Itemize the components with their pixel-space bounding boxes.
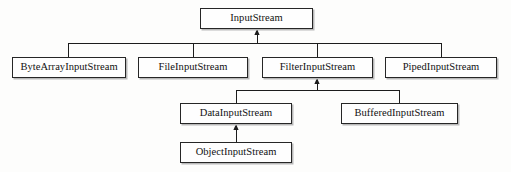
class-hierarchy-diagram: InputStream ByteArrayInputStream FileInp… [0, 0, 511, 172]
class-box-objectinputstream[interactable]: ObjectInputStream [180, 142, 292, 163]
class-name-label: ObjectInputStream [196, 147, 277, 158]
class-name-label: BufferedInputStream [355, 108, 445, 119]
class-box-bytearrayinputstream[interactable]: ByteArrayInputStream [12, 57, 126, 78]
class-box-datainputstream[interactable]: DataInputStream [180, 103, 292, 124]
class-box-inputstream[interactable]: InputStream [200, 8, 313, 29]
class-name-label: FilterInputStream [280, 62, 356, 73]
class-name-label: PipedInputStream [403, 62, 480, 73]
class-name-label: InputStream [230, 13, 282, 23]
class-box-fileinputstream[interactable]: FileInputStream [138, 57, 248, 78]
class-name-label: DataInputStream [200, 108, 272, 119]
class-name-label: ByteArrayInputStream [20, 62, 117, 73]
class-box-bufferedinputstream[interactable]: BufferedInputStream [341, 103, 458, 124]
class-name-label: FileInputStream [159, 62, 228, 73]
class-box-filterinputstream[interactable]: FilterInputStream [262, 57, 373, 78]
class-box-pipedinputstream[interactable]: PipedInputStream [385, 57, 497, 78]
